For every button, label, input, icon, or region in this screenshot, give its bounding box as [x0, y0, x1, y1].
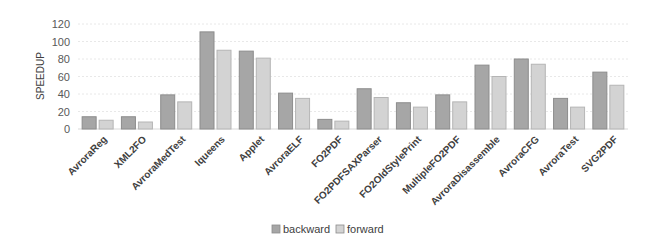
bar-backward — [475, 65, 489, 129]
x-axis-category-labels: AvroraRegXML2FOAvroraMedTestIqueensApple… — [65, 133, 619, 207]
bar-forward — [453, 102, 467, 129]
y-tick-label: 0 — [64, 123, 70, 135]
bars — [82, 32, 624, 129]
x-category-label: Applet — [236, 133, 266, 163]
bar-forward — [374, 98, 388, 130]
y-tick-label: 60 — [58, 71, 70, 83]
legend-label-forward: forward — [347, 223, 384, 235]
bar-backward — [318, 119, 332, 129]
y-axis-ticks: 020406080100120 — [52, 18, 70, 135]
bar-forward — [256, 58, 270, 129]
x-category-label: AvroraELF — [262, 134, 306, 178]
bar-forward — [492, 77, 506, 130]
bar-forward — [217, 50, 231, 129]
x-category-label: Iqueens — [192, 133, 227, 168]
legend-label-backward: backward — [283, 223, 330, 235]
y-tick-label: 80 — [58, 53, 70, 65]
bar-forward — [296, 98, 310, 129]
x-category-label: XML2FO — [112, 133, 149, 170]
bar-backward — [161, 95, 175, 129]
x-category-label: AvroraReg — [65, 134, 109, 178]
bar-forward — [571, 107, 585, 129]
y-axis-label: SPEEDUP — [35, 52, 46, 100]
y-tick-label: 100 — [52, 36, 70, 48]
bar-forward — [99, 120, 113, 129]
bar-forward — [335, 121, 349, 129]
bar-backward — [436, 95, 450, 129]
legend: backwardforward — [272, 223, 384, 235]
x-category-label: AvroraCFG — [496, 133, 541, 178]
bar-backward — [279, 93, 293, 129]
bar-forward — [178, 102, 192, 129]
bar-forward — [610, 85, 624, 129]
y-tick-label: 20 — [58, 106, 70, 118]
y-tick-label: 40 — [58, 88, 70, 100]
bar-backward — [200, 32, 214, 129]
bar-backward — [514, 59, 528, 129]
bar-backward — [357, 89, 371, 129]
x-category-label: FO2PDF — [309, 134, 345, 170]
bar-forward — [138, 122, 152, 129]
bar-forward — [531, 64, 545, 129]
bar-backward — [593, 72, 607, 129]
legend-swatch-forward — [336, 225, 344, 233]
bar-backward — [82, 117, 96, 129]
bar-forward — [413, 107, 427, 129]
x-category-label: AvroraDisassemble — [428, 133, 502, 207]
bar-backward — [121, 117, 135, 129]
y-tick-label: 120 — [52, 18, 70, 30]
legend-swatch-backward — [272, 225, 280, 233]
bar-chart: 020406080100120 SPEEDUP AvroraRegXML2FOA… — [0, 0, 652, 246]
bar-backward — [554, 98, 568, 129]
bar-backward — [239, 51, 253, 129]
x-category-label: AvroraTest — [536, 133, 581, 178]
x-category-label: SVG2PDF — [579, 134, 620, 175]
x-category-label: FO2PDFSAXParser — [312, 134, 384, 206]
bar-backward — [396, 103, 410, 129]
